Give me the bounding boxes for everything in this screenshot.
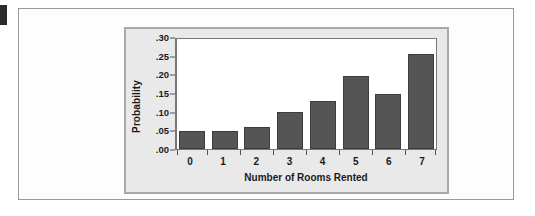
y-axis-tick-label: .00 — [156, 145, 169, 155]
x-axis-tick-mark — [435, 150, 436, 155]
x-axis-tick-label: 1 — [210, 156, 236, 170]
page-edge-marker — [0, 5, 7, 25]
x-axis-tick-label: 3 — [276, 156, 302, 170]
bar — [179, 131, 205, 149]
x-axis-tick-labels: 01234567 — [175, 156, 437, 170]
bar-series — [177, 39, 436, 149]
y-axis-tick-label: .20 — [156, 71, 169, 81]
x-axis-tick-mark — [240, 150, 241, 155]
x-axis-title: Number of Rooms Rented — [175, 172, 437, 183]
x-axis-tick-label: 4 — [310, 156, 336, 170]
plot-wrapper: Probability .00.05.10.15.20.25.30 012345… — [126, 29, 447, 192]
x-axis-tick-mark — [306, 150, 307, 155]
x-axis-tick-label: 0 — [177, 156, 203, 170]
x-axis-tick-marks — [175, 150, 437, 155]
y-axis-tick-label: .30 — [156, 33, 169, 43]
x-axis-tick-label: 5 — [343, 156, 369, 170]
x-axis-tick-mark — [405, 150, 406, 155]
bar — [277, 112, 303, 149]
bar — [375, 94, 401, 149]
y-axis-tick-label: .25 — [156, 52, 169, 62]
y-axis-tick-label: .15 — [156, 89, 169, 99]
y-axis-tick-label: .10 — [156, 108, 169, 118]
page-canvas: Probability .00.05.10.15.20.25.30 012345… — [0, 0, 535, 216]
x-axis-tick-label: 2 — [243, 156, 269, 170]
bar — [212, 131, 238, 149]
bar — [310, 101, 336, 149]
plot-area — [175, 38, 437, 150]
x-axis-tick-label: 7 — [409, 156, 435, 170]
x-axis-tick-mark — [177, 150, 178, 155]
chart-panel: Probability .00.05.10.15.20.25.30 012345… — [124, 27, 449, 194]
bar — [408, 54, 434, 149]
x-axis-tick-mark — [273, 150, 274, 155]
figure-outer-frame: Probability .00.05.10.15.20.25.30 012345… — [18, 8, 514, 200]
y-axis-tick-label: .05 — [156, 127, 169, 137]
y-axis-title: Probability — [128, 51, 144, 161]
bar — [244, 127, 270, 149]
y-axis-title-label: Probability — [131, 80, 142, 133]
x-axis-tick-label: 6 — [376, 156, 402, 170]
x-axis-tick-mark — [372, 150, 373, 155]
x-axis-tick-mark — [207, 150, 208, 155]
x-axis-tick-mark — [339, 150, 340, 155]
y-axis-tick-labels: .00.05.10.15.20.25.30 — [143, 38, 169, 150]
bar — [343, 76, 369, 149]
